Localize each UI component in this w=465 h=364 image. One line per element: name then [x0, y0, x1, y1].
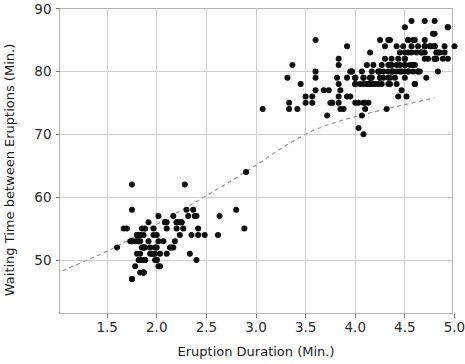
- data-point: [192, 213, 198, 219]
- data-point: [389, 68, 395, 74]
- x-tick-label: 2.0: [146, 319, 167, 335]
- data-point: [154, 232, 160, 238]
- data-point: [410, 62, 416, 68]
- data-point: [177, 232, 183, 238]
- data-point: [412, 81, 418, 87]
- data-point: [380, 75, 386, 81]
- data-point: [155, 213, 161, 219]
- data-point: [399, 68, 405, 74]
- data-point: [417, 68, 423, 74]
- data-point: [352, 100, 358, 106]
- data-point: [298, 81, 304, 87]
- data-point: [195, 226, 201, 232]
- data-point: [309, 100, 315, 106]
- data-point: [324, 112, 330, 118]
- chart-background: [0, 0, 465, 364]
- data-point: [349, 68, 355, 74]
- x-tick-label: 3.0: [245, 319, 266, 335]
- y-tick-label: 60: [34, 189, 51, 205]
- y-tick-label: 70: [34, 126, 51, 142]
- data-point: [193, 257, 199, 263]
- data-point: [190, 207, 196, 213]
- data-point: [364, 81, 370, 87]
- data-point: [402, 56, 408, 62]
- data-point: [180, 226, 186, 232]
- data-point: [442, 50, 448, 56]
- data-point: [389, 56, 395, 62]
- data-point: [409, 43, 415, 49]
- data-point: [286, 106, 292, 112]
- data-point: [195, 232, 201, 238]
- x-tick-label: 1.5: [96, 319, 117, 335]
- data-point: [164, 226, 170, 232]
- data-point: [129, 207, 135, 213]
- data-point: [336, 56, 342, 62]
- data-point: [435, 68, 441, 74]
- data-point: [369, 68, 375, 74]
- data-point: [313, 87, 319, 93]
- data-point: [385, 81, 391, 87]
- data-point: [170, 213, 176, 219]
- data-point: [367, 50, 373, 56]
- data-point: [360, 75, 366, 81]
- x-tick-label: 2.5: [196, 319, 217, 335]
- data-point: [423, 75, 429, 81]
- data-point: [134, 232, 140, 238]
- data-point: [344, 43, 350, 49]
- data-point: [412, 37, 418, 43]
- data-point: [336, 94, 342, 100]
- x-tick-label: 4.5: [394, 319, 415, 335]
- data-point: [394, 62, 400, 68]
- data-point: [432, 18, 438, 24]
- data-point: [243, 169, 249, 175]
- data-point: [188, 232, 194, 238]
- data-point: [313, 37, 319, 43]
- data-point: [309, 94, 315, 100]
- data-point: [202, 232, 208, 238]
- data-point: [394, 43, 400, 49]
- data-point: [336, 100, 342, 106]
- data-point: [379, 62, 385, 68]
- data-point: [379, 81, 385, 87]
- data-point: [364, 62, 370, 68]
- data-point: [352, 81, 358, 87]
- data-point: [377, 37, 383, 43]
- data-point: [114, 244, 120, 250]
- data-point: [146, 219, 152, 225]
- data-point: [418, 50, 424, 56]
- data-point: [394, 81, 400, 87]
- data-point: [337, 106, 343, 112]
- data-point: [385, 37, 391, 43]
- x-axis-label: Eruption Duration (Min.): [177, 344, 334, 359]
- data-point: [284, 75, 290, 81]
- data-point: [359, 68, 365, 74]
- data-point: [402, 24, 408, 30]
- data-point: [329, 100, 335, 106]
- data-point: [169, 244, 175, 250]
- data-point: [129, 182, 135, 188]
- data-point: [179, 219, 185, 225]
- data-point: [155, 238, 161, 244]
- data-point: [313, 75, 319, 81]
- data-point: [360, 131, 366, 137]
- data-point: [294, 106, 300, 112]
- data-point: [147, 251, 153, 257]
- data-point: [360, 100, 366, 106]
- y-tick-label: 50: [34, 252, 51, 268]
- data-point: [377, 68, 383, 74]
- data-point: [124, 226, 130, 232]
- data-point: [157, 263, 163, 269]
- data-point: [422, 18, 428, 24]
- y-tick-label: 90: [34, 1, 51, 17]
- y-tick-label: 80: [34, 63, 51, 79]
- data-point: [397, 50, 403, 56]
- data-point: [233, 207, 239, 213]
- data-point: [356, 125, 362, 131]
- data-point: [382, 43, 388, 49]
- data-point: [313, 68, 319, 74]
- data-point: [404, 94, 410, 100]
- data-point: [241, 226, 247, 232]
- data-point: [137, 251, 143, 257]
- data-point: [427, 43, 433, 49]
- scatter-plot-figure: 1.52.02.53.03.54.04.55.0 5060708090 Erup…: [0, 0, 465, 364]
